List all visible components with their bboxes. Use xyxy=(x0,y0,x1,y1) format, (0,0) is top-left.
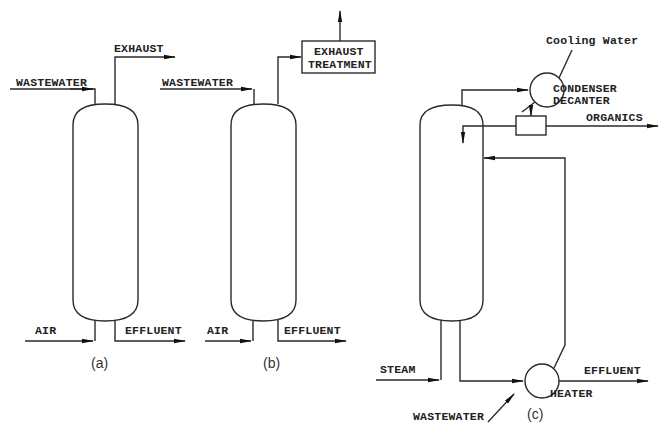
exhaust-treatment-label-line1: EXHAUST xyxy=(314,45,364,58)
steam-label: STEAM xyxy=(380,363,416,376)
wastewater-label-c: WASTEWATER xyxy=(413,410,484,423)
wastewater-inlet-line-c xyxy=(488,394,514,422)
heater-label: HEATER xyxy=(550,387,593,400)
stripping-column-b xyxy=(231,104,296,321)
caption-a: (a) xyxy=(91,355,108,371)
caption-b: (b) xyxy=(263,355,280,371)
panel-a: WASTEWATER EXHAUST AIR EFFLUENT (a) xyxy=(10,42,185,371)
overhead-vapor-line xyxy=(462,90,528,105)
decanter-box xyxy=(516,116,546,135)
wastewater-inlet-line-a xyxy=(10,89,95,104)
organics-label: ORGANICS xyxy=(586,111,643,124)
cooling-water-label: Cooling Water xyxy=(546,34,638,47)
panel-c: Cooling Water CONDENSER DECANTER ORGANIC… xyxy=(376,34,658,423)
effluent-label-c: EFFLUENT xyxy=(584,364,641,377)
air-label-a: AIR xyxy=(35,324,56,337)
wastewater-label-a: WASTEWATER xyxy=(16,76,87,89)
panel-b: WASTEWATER EXHAUST TREATMENT AIR EFFLUEN… xyxy=(160,11,375,371)
heated-feed-line xyxy=(484,158,565,368)
decanter-label: DECANTER xyxy=(553,94,610,107)
air-label-b: AIR xyxy=(207,324,228,337)
exhaust-line-b xyxy=(278,57,301,104)
effluent-label-a: EFFLUENT xyxy=(125,324,182,337)
exhaust-treatment-label-line2: TREATMENT xyxy=(308,58,372,71)
bottoms-line xyxy=(460,320,523,381)
effluent-label-b: EFFLUENT xyxy=(284,324,341,337)
caption-c: (c) xyxy=(527,406,543,422)
stripping-column-a xyxy=(73,104,138,321)
cooling-water-out-line xyxy=(522,102,535,112)
cooling-water-in-line xyxy=(559,50,572,78)
steam-stripping-column xyxy=(420,105,483,321)
exhaust-label-a: EXHAUST xyxy=(114,42,164,55)
wastewater-label-b: WASTEWATER xyxy=(162,76,233,89)
process-flow-diagram: WASTEWATER EXHAUST AIR EFFLUENT (a) WAST… xyxy=(0,0,672,438)
